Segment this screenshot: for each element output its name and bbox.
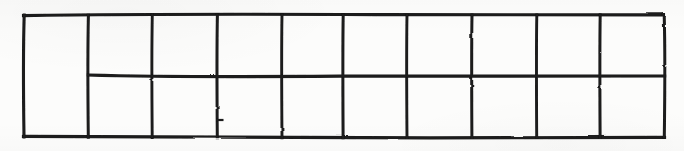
cell-bottom-row-4[interactable] bbox=[282, 76, 343, 137]
cell-column-1-merged[interactable] bbox=[23, 14, 88, 137]
cell-top-row-9[interactable] bbox=[600, 14, 665, 76]
cell-bottom-row-5[interactable] bbox=[343, 76, 407, 137]
cell-top-row-2[interactable] bbox=[152, 14, 217, 76]
cell-hit-areas bbox=[23, 14, 665, 137]
cell-bottom-row-3[interactable] bbox=[217, 76, 282, 137]
cell-top-row-3[interactable] bbox=[217, 14, 282, 76]
cell-bottom-row-9[interactable] bbox=[600, 76, 665, 137]
cell-top-row-5[interactable] bbox=[343, 14, 407, 76]
cell-bottom-row-1[interactable] bbox=[88, 76, 152, 137]
cell-bottom-row-7[interactable] bbox=[472, 76, 537, 137]
hand-drawn-grid bbox=[0, 0, 684, 151]
figure-canvas bbox=[0, 0, 684, 151]
cell-bottom-row-8[interactable] bbox=[537, 76, 600, 137]
cell-top-row-4[interactable] bbox=[282, 14, 343, 76]
cell-top-row-6[interactable] bbox=[407, 14, 472, 76]
cell-top-row-8[interactable] bbox=[537, 14, 600, 76]
cell-top-row-1[interactable] bbox=[88, 14, 152, 76]
cell-bottom-row-6[interactable] bbox=[407, 76, 472, 137]
cell-bottom-row-2[interactable] bbox=[152, 76, 217, 137]
cell-top-row-7[interactable] bbox=[472, 14, 537, 76]
